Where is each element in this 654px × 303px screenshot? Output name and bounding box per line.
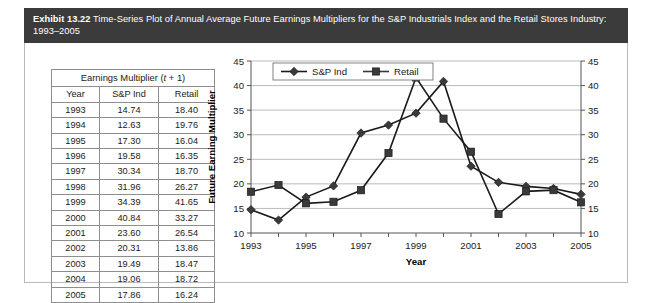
column-header-sp-ind: S&P Ind — [100, 87, 159, 102]
chart-svg: 1010151520202525303035354040454519931995… — [203, 51, 621, 279]
column-header-year: Year — [52, 87, 100, 102]
table-row: 2003 19.49 18.47 — [52, 256, 215, 271]
x-axis-tick-label: 2001 — [460, 240, 481, 251]
table-title: Earnings Multiplier (t + 1) — [52, 70, 215, 87]
data-point-marker-retail — [495, 211, 502, 218]
table-row: 1998 31.96 26.27 — [52, 179, 215, 194]
cell-sp-ind: 20.31 — [100, 241, 159, 256]
exhibit-caption-bar: Exhibit 13.22 Time-Series Plot of Annual… — [24, 8, 628, 43]
table-row: 2001 23.60 26.54 — [52, 226, 215, 241]
table-row: 1993 14.74 18.40 — [52, 102, 215, 117]
cell-sp-ind: 19.06 — [100, 272, 159, 287]
cell-year: 1994 — [52, 118, 100, 133]
legend-marker-retail — [372, 68, 379, 75]
table-header-row: Year S&P Ind Retail — [52, 87, 215, 102]
y-axis-tick-label-right: 10 — [588, 228, 599, 239]
cell-sp-ind: 17.30 — [100, 133, 159, 148]
data-point-marker-retail — [467, 149, 474, 156]
data-point-marker-retail — [330, 199, 337, 206]
cell-year: 1995 — [52, 133, 100, 148]
table-body: 1993 14.74 18.40 1994 12.63 19.76 1995 1… — [52, 102, 215, 302]
table-row: 2000 40.84 33.27 — [52, 210, 215, 225]
x-axis-tick-label: 1997 — [350, 240, 371, 251]
cell-year: 1998 — [52, 179, 100, 194]
cell-year: 2005 — [52, 287, 100, 302]
legend-label-retail: Retail — [394, 66, 419, 77]
cell-year: 2001 — [52, 226, 100, 241]
y-axis-tick-label-left: 45 — [233, 56, 244, 67]
exhibit-figure: Exhibit 13.22 Time-Series Plot of Annual… — [24, 8, 628, 283]
data-point-marker-retail — [275, 182, 282, 189]
time-series-chart: 1010151520202525303035354040454519931995… — [203, 51, 621, 279]
data-point-marker-s-p-ind — [467, 162, 475, 170]
cell-sp-ind: 14.74 — [100, 102, 159, 117]
data-point-marker-s-p-ind — [494, 179, 502, 187]
table-row: 1994 12.63 19.76 — [52, 118, 215, 133]
cell-sp-ind: 19.49 — [100, 256, 159, 271]
cell-sp-ind: 19.58 — [100, 149, 159, 164]
y-axis-tick-label-right: 40 — [588, 80, 599, 91]
y-axis-tick-label-right: 25 — [588, 154, 599, 165]
data-point-marker-retail — [550, 187, 557, 194]
cell-sp-ind: 23.60 — [100, 226, 159, 241]
table-row: 2002 20.31 13.86 — [52, 241, 215, 256]
table-row: 2005 17.86 16.24 — [52, 287, 215, 302]
data-point-marker-s-p-ind — [247, 206, 255, 214]
data-point-marker-retail — [522, 188, 529, 195]
cell-sp-ind: 30.34 — [100, 164, 159, 179]
y-axis-tick-label-left: 10 — [233, 228, 244, 239]
y-axis-tick-label-left: 40 — [233, 80, 244, 91]
series-line-retail — [251, 78, 581, 215]
x-axis-tick-label: 1993 — [240, 240, 261, 251]
data-point-marker-retail — [577, 199, 584, 206]
earnings-multiplier-table: Earnings Multiplier (t + 1) Year S&P Ind… — [51, 69, 215, 303]
table-row: 1999 34.39 41.65 — [52, 195, 215, 210]
y-axis-tick-label-left: 30 — [233, 130, 244, 141]
x-axis-tick-label: 1999 — [405, 240, 426, 251]
x-axis-tick-label: 1995 — [295, 240, 316, 251]
x-axis-title: Year — [406, 256, 427, 267]
cell-year: 1997 — [52, 164, 100, 179]
cell-year: 1993 — [52, 102, 100, 117]
data-point-marker-retail — [302, 200, 309, 207]
data-point-marker-retail — [247, 189, 254, 196]
exhibit-label: Exhibit 13.22 — [33, 14, 91, 24]
data-point-marker-s-p-ind — [357, 129, 365, 137]
cell-sp-ind: 12.63 — [100, 118, 159, 133]
x-axis-tick-label: 2003 — [515, 240, 536, 251]
table-row: 2004 19.06 18.72 — [52, 272, 215, 287]
y-axis-tick-label-left: 20 — [233, 179, 244, 190]
data-point-marker-retail — [440, 115, 447, 122]
cell-year: 1999 — [52, 195, 100, 210]
exhibit-body: Earnings Multiplier (t + 1) Year S&P Ind… — [24, 43, 628, 283]
y-axis-tick-label-left: 25 — [233, 154, 244, 165]
table-row: 1995 17.30 16.04 — [52, 133, 215, 148]
data-point-marker-retail — [385, 150, 392, 157]
table-title-row: Earnings Multiplier (t + 1) — [52, 70, 215, 87]
cell-year: 1996 — [52, 149, 100, 164]
cell-year: 2003 — [52, 256, 100, 271]
y-axis-tick-label-left: 15 — [233, 203, 244, 214]
data-point-marker-s-p-ind — [577, 191, 585, 199]
table-row: 1996 19.58 16.35 — [52, 149, 215, 164]
cell-sp-ind: 40.84 — [100, 210, 159, 225]
y-axis-tick-label-left: 35 — [233, 105, 244, 116]
cell-year: 2002 — [52, 241, 100, 256]
table-row: 1997 30.34 18.70 — [52, 164, 215, 179]
y-axis-tick-label-right: 35 — [588, 105, 599, 116]
cell-year: 2004 — [52, 272, 100, 287]
y-axis-tick-label-right: 20 — [588, 179, 599, 190]
y-axis-title: Future Earning Multiplier — [206, 90, 217, 204]
cell-retail: 16.24 — [159, 287, 215, 302]
earnings-multiplier-table-container: Earnings Multiplier (t + 1) Year S&P Ind… — [51, 69, 215, 303]
cell-sp-ind: 34.39 — [100, 195, 159, 210]
y-axis-tick-label-right: 30 — [588, 130, 599, 141]
cell-sp-ind: 31.96 — [100, 179, 159, 194]
y-axis-tick-label-right: 15 — [588, 203, 599, 214]
data-point-marker-s-p-ind — [384, 121, 392, 129]
y-axis-tick-label-right: 45 — [588, 56, 599, 67]
legend-label-sp-ind: S&P Ind — [312, 66, 347, 77]
data-point-marker-s-p-ind — [329, 182, 337, 190]
x-axis-tick-label: 2005 — [570, 240, 591, 251]
data-point-marker-retail — [357, 187, 364, 194]
